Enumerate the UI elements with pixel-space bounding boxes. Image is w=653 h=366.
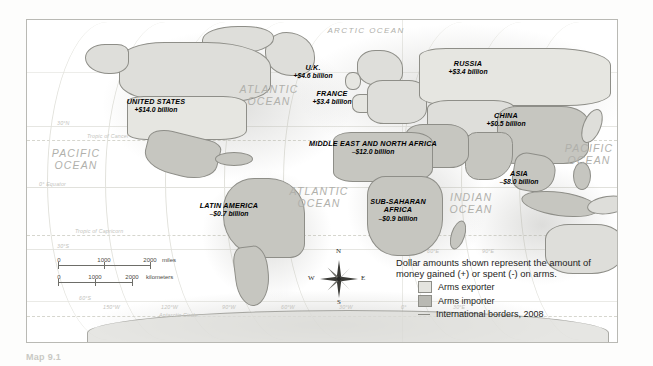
region-name: U.K.: [273, 64, 353, 72]
legend-item-arms-exporter[interactable]: Arms exporter: [396, 281, 611, 293]
region-value: +$14.0 billion: [101, 106, 211, 114]
region-value: +$0.5 billion: [461, 120, 551, 128]
scale-bar-kilometers: 0 1000 2000 kilometers: [58, 275, 208, 290]
scale-bar-miles: 0 1000 2000 miles: [58, 258, 208, 273]
legend-item-international-borders[interactable]: International borders, 2008: [396, 309, 611, 319]
scale-label-miles-1000: 1000: [97, 257, 110, 263]
scale-label-km-2000: 2000: [125, 274, 138, 280]
scale-tick: [95, 279, 96, 286]
grid-label-150w: 150°W: [103, 304, 120, 310]
grid-label-antarctic-circle: Antarctic Circle: [159, 312, 198, 318]
region-value: +$3.4 billion: [423, 68, 513, 76]
grid-label-30s: 30°S: [57, 243, 69, 249]
region-name: MIDDLE EAST AND NORTH AFRICA: [288, 140, 458, 148]
region-value: –$8.0 billion: [474, 178, 564, 186]
region-china[interactable]: CHINA +$0.5 billion: [461, 112, 551, 129]
grid-label-30n: 30°N: [57, 120, 70, 126]
scale-tick: [58, 262, 59, 269]
region-united-states[interactable]: UNITED STATES +$14.0 billion: [101, 98, 211, 115]
ocean-label-pacific-west: PACIFIC OCEAN: [36, 147, 116, 171]
grid-label-60e: 60°E: [427, 248, 439, 254]
landmass-russia[interactable]: [419, 48, 611, 106]
scale-bar: 0 1000 2000 miles 0 1000 2000 kilometers: [58, 258, 208, 290]
compass-rose: N E S W: [308, 248, 370, 310]
grid-label-120w: 120°W: [161, 304, 178, 310]
compass-label-east: E: [361, 274, 365, 282]
scale-unit-miles: miles: [162, 257, 176, 263]
landmass-philippines: [573, 162, 591, 190]
region-asia[interactable]: ASIA –$8.0 billion: [474, 170, 564, 187]
region-france[interactable]: FRANCE +$3.4 billion: [292, 90, 372, 107]
figure-caption: Map 9.1: [26, 352, 61, 364]
region-value: +$3.4 billion: [292, 98, 372, 106]
scale-label-miles-2000: 2000: [143, 257, 156, 263]
ocean-label-pacific-east: PACIFIC OCEAN: [549, 142, 618, 166]
landmass-caribbean: [215, 152, 253, 166]
grid-label-60w: 60°W: [281, 304, 295, 310]
region-name: ASIA: [474, 170, 564, 178]
region-sub-saharan-africa[interactable]: SUB-SAHARAN AFRICA –$0.9 billion: [358, 198, 438, 223]
compass-label-south: S: [337, 298, 341, 306]
region-latin-america[interactable]: LATIN AMERICA –$0.7 billion: [179, 202, 279, 219]
scale-tick: [150, 262, 151, 269]
map-page: 30°N Tropic of Cancer 0° Equator Tropic …: [0, 0, 653, 366]
scale-label-km-1000: 1000: [88, 274, 101, 280]
grid-label-60s: 60°S: [79, 295, 91, 301]
region-uk[interactable]: U.K. +$4.6 billion: [273, 64, 353, 81]
ocean-label-arctic: ARCTIC OCEAN: [327, 25, 404, 37]
swatch-importer-icon: [418, 295, 432, 307]
region-russia[interactable]: RUSSIA +$3.4 billion: [423, 60, 513, 77]
compass-label-west: W: [308, 274, 315, 282]
ocean-label-atlantic-south: ATLANTIC OCEAN: [279, 185, 359, 209]
scale-unit-kilometers: kilometers: [146, 274, 173, 280]
region-name: LATIN AMERICA: [179, 202, 279, 210]
map-legend: Dollar amounts shown represent the amoun…: [396, 257, 611, 319]
swatch-exporter-icon: [418, 281, 432, 293]
region-value: –$0.7 billion: [179, 210, 279, 218]
region-name: UNITED STATES: [101, 98, 211, 106]
grid-label-tropic-capricorn: Tropic of Capricorn: [75, 228, 123, 234]
region-value: –$12.0 billion: [288, 148, 458, 156]
landmass-alaska: [85, 44, 129, 74]
grid-label-90e: 90°E: [482, 248, 494, 254]
legend-item-arms-importer[interactable]: Arms importer: [396, 295, 611, 307]
region-name: FRANCE: [292, 90, 372, 98]
legend-description: Dollar amounts shown represent the amoun…: [396, 257, 611, 279]
grid-label-tropic-cancer: Tropic of Cancer: [87, 133, 129, 139]
landmass-europe: [367, 80, 427, 124]
region-middle-east-north-africa[interactable]: MIDDLE EAST AND NORTH AFRICA –$12.0 bill…: [288, 140, 458, 157]
legend-label: Arms importer: [438, 296, 495, 306]
grid-label-90w: 90°W: [222, 304, 236, 310]
region-value: +$4.6 billion: [273, 72, 353, 80]
region-name: CHINA: [461, 112, 551, 120]
legend-label: Arms exporter: [438, 282, 495, 292]
scale-label-miles-0: 0: [57, 257, 60, 263]
scale-tick: [104, 262, 105, 269]
region-name: SUB-SAHARAN AFRICA: [358, 198, 438, 215]
border-line-icon: [418, 314, 430, 315]
legend-label: International borders, 2008: [436, 309, 544, 319]
region-value: –$0.9 billion: [358, 215, 438, 223]
scale-tick: [132, 279, 133, 286]
region-name: RUSSIA: [423, 60, 513, 68]
ocean-label-indian: INDIAN OCEAN: [431, 191, 511, 215]
landmass-madagascar: [447, 219, 470, 252]
compass-label-north: N: [336, 247, 341, 255]
graticule-tropic-capricorn: [27, 235, 617, 236]
scale-tick: [58, 279, 59, 286]
grid-label-equator: 0° Equator: [39, 181, 66, 187]
scale-label-km-0: 0: [57, 274, 60, 280]
